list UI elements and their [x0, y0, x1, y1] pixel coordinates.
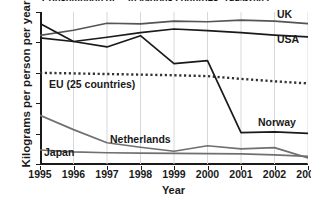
x-tick-mark — [107, 166, 108, 170]
chart-container: Consumption of ... in various countries,… — [0, 0, 311, 201]
x-tick-mark — [141, 166, 142, 170]
x-tick-mark — [74, 166, 75, 170]
x-tick-mark — [308, 166, 309, 170]
series-label-uk: UK — [277, 8, 292, 20]
x-tick-mark — [241, 166, 242, 170]
x-tick-mark — [174, 166, 175, 170]
x-tick-mark — [275, 166, 276, 170]
series-label-japan: Japan — [44, 146, 74, 158]
series-label-netherlands: Netherlands — [110, 133, 171, 145]
series-label-norway: Norway — [258, 116, 296, 128]
x-axis-label: Year — [36, 184, 311, 196]
series-label-usa: USA — [277, 33, 299, 45]
chart-title: Consumption of ... in various countries,… — [42, 0, 269, 1]
series-label-eu-countries: EU (25 countries) — [49, 78, 135, 90]
x-tick-mark — [208, 166, 209, 170]
x-tick-mark — [40, 166, 41, 170]
y-axis-label: Kilograms per person per year — [20, 0, 32, 169]
y-tick-mark — [36, 164, 41, 165]
